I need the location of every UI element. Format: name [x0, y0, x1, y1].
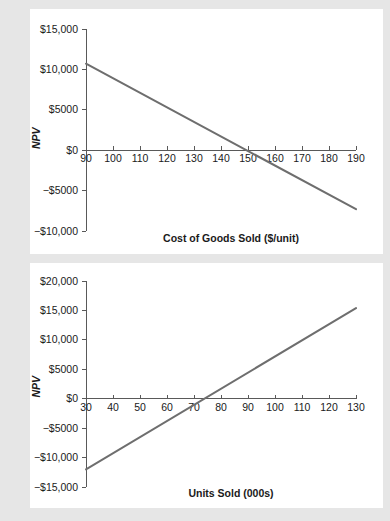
- x-axis-tick-label: 190: [347, 152, 365, 164]
- x-axis-title: Units Sold (000s): [188, 487, 273, 499]
- y-axis-tick-label: $20,000: [40, 275, 78, 287]
- y-axis-tick-label: −$15,000: [34, 481, 78, 493]
- sensitivity-charts-figure: $15,000$10,000$5000$0−$5000−$10,00090100…: [0, 0, 390, 521]
- x-axis-tick-label: 110: [294, 401, 311, 413]
- chart-npv-vs-units: $20,000$15,000$10,000$5000$0−$5000−$10,0…: [30, 263, 383, 508]
- y-axis-tick-label: $15,000: [40, 304, 78, 316]
- y-axis-tick-label: $5000: [49, 363, 78, 375]
- x-axis-tick-label: 140: [212, 152, 230, 164]
- chart-npv-vs-cogs: $15,000$10,000$5000$0−$5000−$10,00090100…: [30, 9, 383, 254]
- data-line-npv: [86, 64, 356, 209]
- y-axis-tick-label: −$10,000: [34, 225, 78, 237]
- x-axis-tick-label: 130: [347, 401, 365, 413]
- y-axis-tick-label: $5000: [49, 103, 78, 115]
- chart-panel-npv-vs-units: $20,000$15,000$10,000$5000$0−$5000−$10,0…: [30, 263, 383, 508]
- y-axis-tick-label: −$5000: [43, 184, 78, 196]
- x-axis-tick-label: 100: [266, 401, 284, 413]
- x-axis-tick-label: 110: [132, 152, 149, 164]
- x-axis-tick-label: 100: [104, 152, 122, 164]
- y-axis-title: NPV: [30, 126, 42, 149]
- x-axis-tick-label: 30: [80, 401, 92, 413]
- y-axis-tick-label: −$10,000: [34, 451, 78, 463]
- y-axis-tick-label: −$5000: [43, 422, 78, 434]
- y-axis-tick-label: $0: [66, 144, 78, 156]
- x-axis-tick-label: 180: [320, 152, 338, 164]
- x-axis-tick-label: 120: [320, 401, 338, 413]
- x-axis-tick-label: 60: [161, 401, 173, 413]
- x-axis-tick-label: 120: [158, 152, 176, 164]
- x-axis-title: Cost of Goods Sold ($/unit): [163, 232, 299, 244]
- x-axis-tick-label: 90: [80, 152, 92, 164]
- y-axis-title: NPV: [30, 375, 42, 398]
- y-axis-tick-label: $10,000: [40, 63, 78, 75]
- x-axis-tick-label: 80: [215, 401, 227, 413]
- x-axis-tick-label: 40: [107, 401, 119, 413]
- x-axis-tick-label: 90: [242, 401, 254, 413]
- y-axis-tick-label: $10,000: [40, 333, 78, 345]
- chart-panel-npv-vs-cogs: $15,000$10,000$5000$0−$5000−$10,00090100…: [30, 9, 383, 254]
- x-axis-tick-label: 130: [185, 152, 203, 164]
- y-axis-tick-label: $15,000: [40, 23, 78, 35]
- data-line-npv: [86, 308, 356, 469]
- y-axis-tick-label: $0: [66, 392, 78, 404]
- x-axis-tick-label: 170: [293, 152, 311, 164]
- x-axis-tick-label: 50: [134, 401, 146, 413]
